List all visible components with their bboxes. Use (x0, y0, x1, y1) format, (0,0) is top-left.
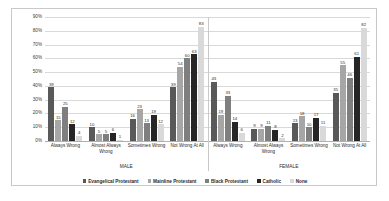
bar: 55 (340, 65, 346, 141)
bar: 61 (354, 57, 360, 141)
bar: 14 (232, 122, 238, 141)
bar-value-label: 10 (307, 123, 312, 128)
bar: 2 (279, 138, 285, 141)
bar-value-label: 23 (137, 105, 142, 110)
y-tick-label: 10% (33, 125, 42, 130)
bar-value-label: 83 (199, 22, 204, 27)
bar-value-label: 6 (112, 128, 114, 133)
bar: 54 (177, 67, 183, 141)
legend-label: Mainline Protestant (153, 179, 196, 184)
legend-item[interactable]: None (290, 179, 307, 184)
bar-value-label: 46 (347, 73, 352, 78)
bar-value-label: 18 (300, 112, 305, 117)
bar-value-label: 25 (63, 102, 68, 107)
bar: 9 (258, 129, 264, 141)
y-tick-label: 50% (33, 70, 42, 75)
supergroup-label: FEMALE (208, 163, 371, 175)
y-tick-label: 90% (33, 15, 42, 20)
legend-item[interactable]: Catholic (257, 179, 281, 184)
bar-value-label: 39 (49, 83, 54, 88)
bar: 6 (110, 133, 116, 141)
bar-value-label: 17 (314, 113, 319, 118)
bar: 17 (313, 118, 319, 141)
bar-value-label: 4 (78, 131, 80, 136)
y-tick-label: 20% (33, 111, 42, 116)
legend-swatch-icon (257, 179, 261, 183)
bar: 10 (89, 127, 95, 141)
bar-value-label: 11 (266, 121, 270, 126)
bar: 5 (103, 134, 109, 141)
bar: 46 (347, 78, 353, 141)
bar-value-label: 33 (225, 91, 230, 96)
x-labels-female: Always WrongAlmost Always WrongSometimes… (208, 142, 371, 164)
x-axis-supergroup-labels: MALEFEMALE (45, 163, 370, 175)
bar: 4 (76, 136, 82, 142)
bar: 63 (191, 54, 197, 141)
bar: 10 (306, 127, 312, 141)
supergroup-label: MALE (45, 163, 208, 175)
x-axis-category-labels: Always WrongAlmost Always WrongSometimes… (45, 142, 370, 164)
bar-value-label: 5 (105, 130, 107, 135)
supergroup-female: 43193314699118213181017113555466182 (208, 17, 371, 141)
legend-label: None (296, 179, 308, 184)
bar: 8 (272, 130, 278, 141)
bar: 15 (55, 120, 61, 141)
legend-item[interactable]: Black Protestant (205, 179, 248, 184)
x-category-label: Always Wrong (45, 142, 86, 164)
bar-group: 431933146 (208, 17, 249, 141)
legend-swatch-icon (148, 179, 152, 183)
legend-swatch-icon (205, 179, 209, 183)
bar: 33 (225, 96, 231, 141)
bar-group: 3954606383 (167, 17, 208, 141)
legend-swatch-icon (290, 179, 294, 183)
bar-group: 991182 (248, 17, 289, 141)
bar: 9 (251, 129, 257, 141)
bar: 60 (184, 58, 190, 141)
bar: 18 (299, 116, 305, 141)
bar: 1 (117, 140, 123, 141)
bar-group: 3555466182 (329, 17, 370, 141)
y-tick-label: 0% (35, 139, 42, 144)
x-category-label: Always Wrong (208, 142, 249, 164)
bar: 39 (48, 87, 54, 141)
y-tick-label: 60% (33, 56, 42, 61)
x-category-label: Sometimes Wrong (126, 142, 167, 164)
plot-area: 90%80%70%60%50%40%30%20%10%0% 3915251241… (45, 17, 370, 141)
bar: 19 (151, 115, 157, 141)
legend-item[interactable]: Evangelical Protestant (83, 179, 139, 184)
bar-value-label: 43 (211, 77, 216, 82)
bar-value-label: 35 (333, 88, 338, 93)
legend-swatch-icon (83, 179, 87, 183)
legend-label: Evangelical Protestant (88, 179, 138, 184)
bar-value-label: 9 (253, 124, 255, 129)
bar-value-label: 6 (241, 128, 243, 133)
x-category-label: Not Wrong At All (167, 142, 208, 164)
bar-value-label: 13 (144, 119, 149, 124)
y-tick-label: 30% (33, 97, 42, 102)
y-tick-label: 70% (33, 42, 42, 47)
bar-group: 105561 (86, 17, 127, 141)
bar: 82 (361, 28, 367, 141)
x-category-label: Not Wrong At All (329, 142, 370, 164)
bar: 12 (69, 124, 75, 141)
bar: 43 (211, 82, 217, 141)
x-category-label: Almost Always Wrong (86, 142, 127, 164)
bar: 11 (265, 126, 271, 141)
legend-label: Catholic (263, 179, 282, 184)
bar-value-label: 19 (218, 110, 223, 115)
bar-value-label: 13 (293, 119, 298, 124)
bar-value-label: 14 (232, 117, 237, 122)
legend-item[interactable]: Mainline Protestant (148, 179, 197, 184)
bar: 16 (130, 119, 136, 141)
bar-value-label: 11 (321, 121, 325, 126)
x-category-label: Sometimes Wrong (289, 142, 330, 164)
bar: 13 (144, 123, 150, 141)
bar-value-label: 19 (151, 110, 156, 115)
bar-group: 391525124 (45, 17, 86, 141)
bar-value-label: 55 (340, 61, 345, 66)
bar-group: 1318101711 (289, 17, 330, 141)
supergroup-male: 39152512410556116231319123954606383 (45, 17, 208, 141)
bar: 39 (170, 87, 176, 141)
bar-value-label: 12 (158, 120, 163, 125)
bar-value-label: 9 (260, 124, 262, 129)
